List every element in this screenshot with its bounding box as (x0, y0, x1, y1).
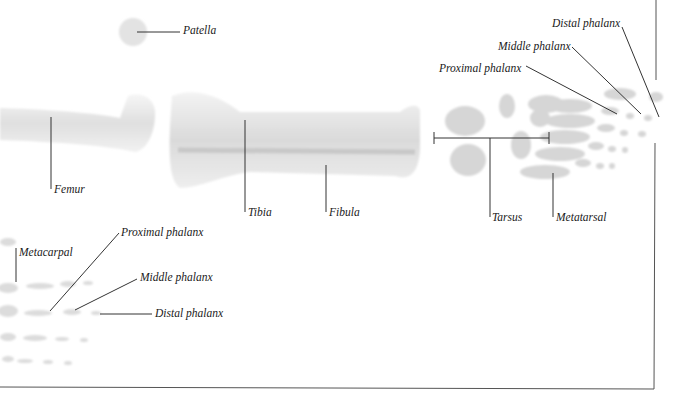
label-tarsus: Tarsus (492, 211, 522, 224)
femur-bone (0, 95, 155, 152)
label-tibia: Tibia (248, 206, 272, 219)
label-foot-proximal-phalanx: Proximal phalanx (439, 62, 521, 75)
label-femur: Femur (54, 183, 85, 196)
label-foot-distal-phalanx: Distal phalanx (552, 17, 620, 30)
tibia-fibula-bones (170, 92, 420, 188)
label-hand-distal-phalanx: Distal phalanx (155, 307, 223, 320)
label-fibula: Fibula (329, 206, 360, 219)
hand-proximal-phalanx-leader (50, 233, 119, 311)
label-patella: Patella (183, 24, 216, 37)
foot-bones (445, 88, 663, 179)
frame-right-lower (654, 143, 655, 389)
label-metatarsal: Metatarsal (556, 211, 606, 224)
label-foot-middle-phalanx: Middle phalanx (498, 40, 571, 53)
label-hand-middle-phalanx: Middle phalanx (140, 271, 213, 284)
bone-illustration (0, 0, 681, 394)
anatomy-diagram: Patella Femur Tibia Fibula Tarsus Metata… (0, 0, 681, 394)
foot-distal-phalanx-leader (622, 27, 659, 117)
frame-bottom (0, 387, 654, 389)
label-hand-proximal-phalanx: Proximal phalanx (121, 226, 203, 239)
label-metacarpal: Metacarpal (19, 246, 73, 259)
